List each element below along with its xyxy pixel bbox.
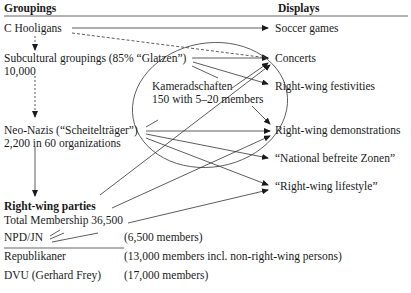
grouping-parties-title: Right-wing parties (4, 200, 96, 213)
display-lifestyle: “Right-wing lifestyle” (275, 180, 378, 193)
party-name-republikaner: Republikaner (4, 250, 66, 263)
line-neonazis-kameradschaften (146, 120, 158, 127)
grouping-kameradschaften-count: 150 with 5–20 members (152, 93, 263, 106)
party-members-dvu: (17,000 members) (124, 269, 208, 282)
party-members-npd: (6,500 members) (124, 231, 203, 244)
grouping-kameradschaften: Kameradschaften (152, 80, 232, 93)
display-soccer: Soccer games (275, 22, 339, 35)
grouping-neonazis-count: 2,200 in 60 organizations (4, 137, 121, 150)
party-name-npd: NPD/JN (4, 231, 43, 244)
arrow-parties-demonstrations (112, 136, 270, 208)
grouping-subcultural-count: 10,000 (4, 65, 36, 78)
grouping-hooligans: C Hooligans (4, 22, 62, 35)
grouping-subcultural: Subcultural groupings (85% “Glatzen”) (4, 52, 186, 65)
npd-stroke-3 (52, 233, 98, 242)
party-name-dvu: DVU (Gerhard Frey) (4, 269, 101, 282)
display-zonen: “National befreite Zonen” (275, 152, 395, 165)
header-displays: Displays (278, 2, 320, 15)
grouping-neonazis: Neo-Nazis (“Scheitelträger”) (4, 124, 138, 137)
display-demonstrations: Right-wing demonstrations (275, 124, 401, 137)
arrow-kameradschaften-demonstrations (252, 106, 270, 124)
grouping-parties-total: Total Membership 36,500 (4, 214, 123, 227)
arrow-parties-lifestyle (128, 190, 268, 223)
party-members-republikaner: (13,000 members incl. non-right-wing per… (124, 250, 342, 263)
arrow-kameradschaften-concerts (232, 63, 268, 88)
display-concerts: Concerts (275, 52, 316, 65)
npd-stroke-2 (50, 233, 64, 239)
header-groupings: Groupings (4, 2, 56, 15)
display-festivities: Right-wing festivities (275, 80, 375, 93)
